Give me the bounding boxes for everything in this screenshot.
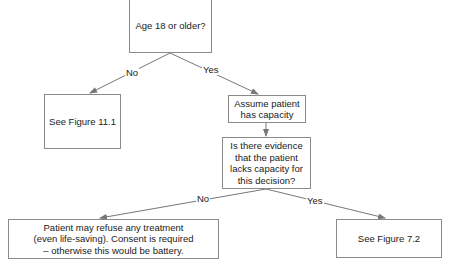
node-evidence-question-text: Is there evidence that the patient lacks… bbox=[230, 140, 303, 186]
node-assume-capacity: Assume patient has capacity bbox=[228, 95, 306, 123]
node-see-figure-7-2-text: See Figure 7.2 bbox=[358, 233, 420, 245]
node-see-figure-7-2: See Figure 7.2 bbox=[336, 219, 442, 258]
edge-evidence-yes bbox=[266, 189, 385, 218]
edge-label-age-yes: Yes bbox=[202, 64, 220, 75]
edge-label-evidence-no: No bbox=[196, 193, 210, 204]
node-see-figure-11-1-text: See Figure 11.1 bbox=[49, 116, 116, 128]
node-evidence-question: Is there evidence that the patient lacks… bbox=[222, 137, 311, 189]
node-see-figure-11-1: See Figure 11.1 bbox=[44, 94, 121, 149]
edge-evidence-no bbox=[100, 189, 266, 218]
node-age-question-text: Age 18 or older? bbox=[135, 20, 205, 32]
edge-label-age-no: No bbox=[125, 67, 139, 78]
node-assume-capacity-text: Assume patient has capacity bbox=[234, 98, 299, 121]
node-patient-may-refuse-text: Patient may refuse any treatment (even l… bbox=[34, 222, 194, 257]
node-patient-may-refuse: Patient may refuse any treatment (even l… bbox=[8, 219, 219, 259]
edge-label-evidence-yes: Yes bbox=[306, 195, 324, 206]
node-age-question: Age 18 or older? bbox=[129, 0, 212, 53]
